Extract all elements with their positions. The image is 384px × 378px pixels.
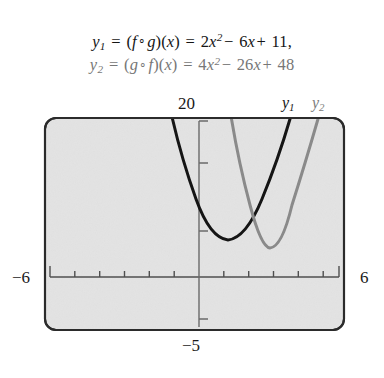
y-axis-max-label: 20 <box>178 94 195 114</box>
equation-y1: y1 = (f∘g)(x) = 2x2− 6x+ 11, <box>0 30 384 54</box>
equation-y2: y2 = (g∘f)(x) = 4x2− 26x+ 48 <box>0 54 384 78</box>
graph-figure: y1 = (f∘g)(x) = 2x2− 6x+ 11, y2 = (g∘f)(… <box>0 0 384 378</box>
curve-label-y1-sub: 1 <box>289 101 294 113</box>
curve-label-y2-sub: 2 <box>319 101 324 113</box>
equation-y1-text: y1 = (f∘g)(x) = 2x2− 6x+ 11, <box>92 32 292 51</box>
equation-block: y1 = (f∘g)(x) = 2x2− 6x+ 11, y2 = (g∘f)(… <box>0 30 384 77</box>
y-axis-min-label: −5 <box>182 336 200 356</box>
curve-label-y2: y2 <box>312 94 325 113</box>
x-axis-min-label: −6 <box>12 268 30 288</box>
graph-canvas <box>0 88 384 378</box>
x-axis-max-label: 6 <box>360 268 369 288</box>
screen-grain-overlay <box>45 118 344 330</box>
equation-y2-text: y2 = (g∘f)(x) = 4x2− 26x+ 48 <box>90 55 295 74</box>
plot-area <box>0 88 384 378</box>
curve-label-y1: y1 <box>282 94 295 113</box>
